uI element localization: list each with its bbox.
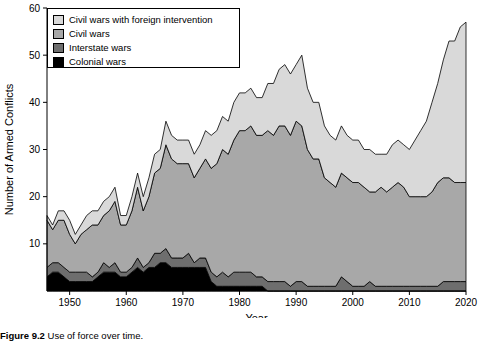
- legend-label-colonial-wars: Colonial wars: [69, 57, 126, 67]
- y-tick-label-20: 20: [29, 191, 41, 202]
- legend-label-civil-wars-foreign-intervention: Civil wars with foreign intervention: [69, 15, 213, 25]
- legend-swatch-interstate-wars: [53, 43, 64, 53]
- figure-caption: Figure 9.2 Use of force over time.: [0, 330, 480, 342]
- legend-item-civil-wars-foreign-intervention: Civil wars with foreign intervention: [53, 13, 235, 26]
- x-tick-label-2000: 2000: [342, 297, 365, 308]
- figure-container: 1020304050601950196019701980199020002010…: [0, 0, 480, 357]
- y-tick-label-10: 10: [29, 238, 41, 249]
- y-tick-label-30: 30: [29, 144, 41, 155]
- y-tick-label-40: 40: [29, 97, 41, 108]
- legend-item-colonial-wars: Colonial wars: [53, 55, 235, 68]
- y-axis-title: Number of Armed Conflicts: [3, 83, 15, 215]
- legend-label-civil-wars: Civil wars: [69, 29, 110, 39]
- y-tick-label-60: 60: [29, 3, 41, 14]
- x-tick-label-1960: 1960: [115, 297, 138, 308]
- y-tick-label-50: 50: [29, 50, 41, 61]
- x-tick-label-1970: 1970: [172, 297, 195, 308]
- legend-label-interstate-wars: Interstate wars: [69, 43, 131, 53]
- legend-swatch-civil-wars-foreign-intervention: [53, 15, 64, 25]
- x-axis-title: Year: [245, 312, 268, 318]
- legend-swatch-colonial-wars: [53, 57, 64, 67]
- x-tick-label-1990: 1990: [285, 297, 308, 308]
- legend-swatch-civil-wars: [53, 29, 64, 39]
- legend-item-civil-wars: Civil wars: [53, 27, 235, 40]
- x-tick-label-1950: 1950: [59, 297, 82, 308]
- x-tick-label-2010: 2010: [398, 297, 421, 308]
- figure-caption-body: Use of force over time.: [48, 330, 144, 341]
- legend-item-interstate-wars: Interstate wars: [53, 41, 235, 54]
- x-tick-label-2020: 2020: [455, 297, 478, 308]
- x-tick-label-1980: 1980: [228, 297, 251, 308]
- chart-legend: Civil wars with foreign intervention Civ…: [47, 8, 240, 68]
- figure-number: Figure 9.2: [0, 330, 45, 341]
